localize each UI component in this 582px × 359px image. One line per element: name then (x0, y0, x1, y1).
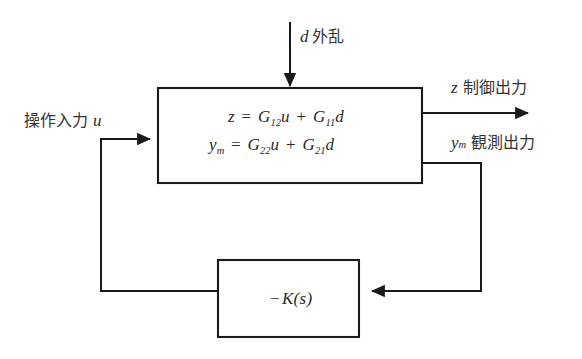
controlled-output-text: 制御出力 (463, 80, 527, 96)
eq1-term1-subscript: 12 (271, 117, 282, 128)
eq1-term2-subscript: 11 (325, 117, 335, 128)
plant-equation-2: ym = G22u + G21d (209, 136, 334, 157)
disturbance-text: 外乱 (312, 29, 344, 45)
eq2-lhs: y (209, 135, 217, 154)
eq1-lhs: z (228, 107, 235, 126)
controller-symbol: K (282, 289, 294, 308)
controller-argument: (s) (294, 289, 313, 308)
eq2-equals: = (229, 135, 243, 154)
eq2-plus: + (284, 135, 298, 154)
eq2-term2-gain: G (302, 135, 315, 154)
eq2-term1-gain: G (247, 135, 260, 154)
disturbance-label: d 外乱 (300, 28, 344, 45)
observed-output-text: 観測出力 (471, 135, 535, 151)
observed-output-label: ym 観測出力 (451, 134, 535, 151)
disturbance-symbol: d (300, 28, 309, 45)
controlled-output-label: z 制御出力 (451, 79, 527, 96)
eq2-term1-var: u (271, 135, 280, 154)
eq2-term1-subscript: 22 (260, 145, 271, 156)
eq1-term1-var: u (281, 107, 290, 126)
plant-equation-1: z = G12u + G11d (228, 108, 344, 129)
eq1-equals: = (239, 107, 253, 126)
block-diagram: d 外乱 操作入力 u z 制御出力 ym 観測出力 z = G12u + G1… (0, 0, 582, 359)
eq1-term2-var: d (335, 107, 344, 126)
manipulated-input-text: 操作入力 (24, 113, 88, 129)
eq1-plus: + (294, 107, 308, 126)
eq2-lhs-subscript: m (217, 145, 225, 156)
manipulated-input-label: 操作入力 u (24, 112, 102, 129)
observed-output-symbol: ym (451, 134, 466, 151)
manipulated-input-symbol: u (93, 112, 102, 129)
eq2-term2-var: d (326, 135, 335, 154)
eq2-term2-subscript: 21 (315, 145, 326, 156)
eq1-term1-gain: G (258, 107, 271, 126)
eq1-term2-gain: G (313, 107, 326, 126)
controller-label: −K(s) (268, 290, 312, 307)
controller-sign: − (268, 289, 282, 308)
observed-output-subscript: m (459, 139, 467, 150)
controlled-output-symbol: z (451, 79, 458, 96)
